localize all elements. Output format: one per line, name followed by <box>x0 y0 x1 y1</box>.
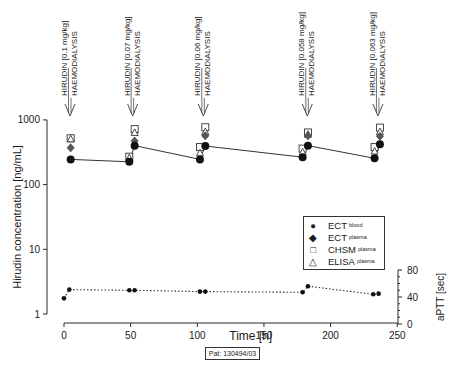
dose-label: HIRUDIN [0.063 mg/kg] <box>368 12 377 96</box>
marker-aptt <box>376 291 381 296</box>
legend-item-ect-plasma: ◆ ECTplasma <box>308 231 367 243</box>
x-tick-label: 100 <box>189 330 206 341</box>
legend: ● ECTblood ◆ ECTplasma □ CHSMplasma △ EL… <box>303 216 385 270</box>
arrow-down-icon <box>373 104 383 116</box>
open-square-icon: □ <box>308 244 318 255</box>
aptt-line <box>64 286 379 298</box>
legend-label: CHSM <box>328 244 356 255</box>
legend-sub: blood <box>349 222 362 228</box>
event-label: HAEMODIALYSIS <box>70 31 79 96</box>
hirudin-chart: 1101001000Hirudin concentration [ng/mL]0… <box>0 0 456 372</box>
dose-label: HIRUDIN [0.1 mg/kg] <box>60 21 69 96</box>
arrow-down-icon <box>128 104 138 116</box>
dose-annotation: HIRUDIN [0.058 mg/kg]HAEMODIALYSIS <box>297 12 316 116</box>
x-tick-label: 250 <box>389 330 406 341</box>
legend-sub: plasma <box>349 234 367 240</box>
y2-tick-label: 80 <box>407 265 419 276</box>
arrow-down-icon <box>302 104 312 116</box>
x-axis-title: Time [h] <box>229 329 272 343</box>
legend-item-ect-blood: ● ECTblood <box>308 219 362 231</box>
marker-aptt <box>67 287 72 292</box>
marker-ect-blood <box>371 154 379 162</box>
marker-ect-blood <box>125 158 133 166</box>
marker-ect-blood <box>201 142 209 150</box>
dose-annotation: HIRUDIN [0.07 mg/kg]HAEMODIALYSIS <box>123 16 142 116</box>
x-tick-label: 200 <box>322 330 339 341</box>
open-triangle-icon: △ <box>308 256 318 267</box>
event-label: HAEMODIALYSIS <box>307 31 316 96</box>
marker-ect-blood <box>131 142 139 150</box>
dose-annotation: HIRUDIN [0.063 mg/kg]HAEMODIALYSIS <box>368 12 387 116</box>
legend-label: ECT <box>328 220 347 231</box>
legend-label: ELISA <box>328 256 355 267</box>
x-tick-label: 50 <box>125 330 137 341</box>
marker-aptt <box>127 288 132 293</box>
y2-tick-label: 0 <box>407 319 413 330</box>
x-tick-label: 0 <box>61 330 67 341</box>
patient-id-label: Pat: 130494/03 <box>205 347 260 360</box>
legend-label: ECT <box>328 232 347 243</box>
dose-label: HIRUDIN [0.06 mg/kg] <box>193 16 202 96</box>
marker-ect-blood <box>299 153 307 161</box>
marker-aptt <box>306 284 311 289</box>
arrow-down-icon <box>65 104 75 116</box>
marker-aptt <box>371 292 376 297</box>
arrow-down-icon <box>198 104 208 116</box>
dose-label: HIRUDIN [0.058 mg/kg] <box>297 12 306 96</box>
marker-ect-blood <box>196 155 204 163</box>
dose-annotation: HIRUDIN [0.1 mg/kg]HAEMODIALYSIS <box>60 21 79 116</box>
marker-aptt <box>132 288 137 293</box>
marker-aptt <box>203 289 208 294</box>
marker-aptt <box>300 290 305 295</box>
legend-item-chsm-plasma: □ CHSMplasma <box>308 243 376 255</box>
event-label: HAEMODIALYSIS <box>133 31 142 96</box>
y2-tick-label: 40 <box>407 292 419 303</box>
y-axis-title: Hirudin concentration [ng/mL] <box>11 145 23 289</box>
legend-item-elisa-plasma: △ ELISAplasma <box>308 255 375 267</box>
marker-ect-blood <box>67 155 75 163</box>
event-label: HAEMODIALYSIS <box>378 31 387 96</box>
marker-ect-plasma <box>67 143 75 152</box>
y-tick-label: 1000 <box>18 114 41 125</box>
marker-ect-blood <box>376 140 384 148</box>
legend-sub: plasma <box>358 246 376 252</box>
y-tick-label: 10 <box>29 244 41 255</box>
marker-aptt <box>198 289 203 294</box>
dose-label: HIRUDIN [0.07 mg/kg] <box>123 16 132 96</box>
ect-blood-line <box>71 144 380 162</box>
y-tick-label: 100 <box>23 179 40 190</box>
filled-diamond-icon: ◆ <box>308 232 318 243</box>
dose-annotation: HIRUDIN [0.06 mg/kg]HAEMODIALYSIS <box>193 16 212 116</box>
marker-aptt <box>62 296 67 301</box>
marker-ect-blood <box>304 142 312 150</box>
filled-circle-icon: ● <box>308 220 318 231</box>
legend-sub: plasma <box>357 258 375 264</box>
event-label: HAEMODIALYSIS <box>203 31 212 96</box>
y2-axis-title: aPTT [sec] <box>435 273 446 321</box>
y-tick-label: 1 <box>34 309 40 320</box>
